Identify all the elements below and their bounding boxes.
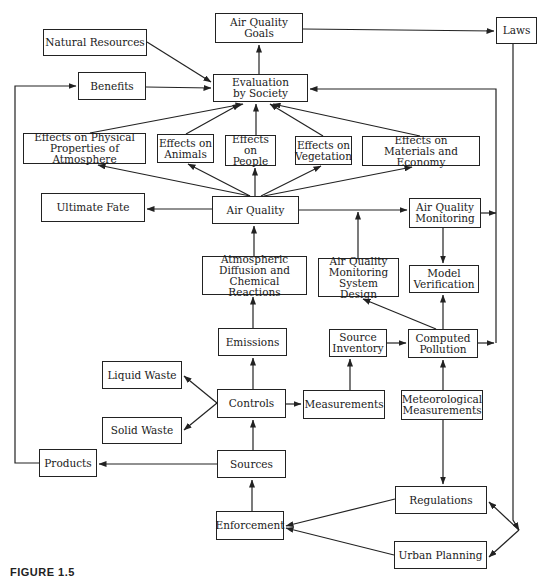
figure-caption: FIGURE 1.5 — [10, 566, 75, 578]
node-effects-people: Effects on People — [225, 135, 276, 166]
arrow-controls-to-liquid_waste — [184, 376, 217, 403]
arrow-computed_pollution-to-aq_monitoring_design — [363, 299, 436, 329]
node-solid-waste: Solid Waste — [102, 417, 182, 444]
node-computed-pollution: Computed Pollution — [408, 329, 478, 358]
node-air-quality-monitoring: Air Quality Monitoring — [409, 198, 481, 228]
node-meteorological-measurements: Meteorological Measurements — [401, 390, 483, 420]
air-quality-flow-diagram: Air Quality Goals Laws Natural Resources… — [0, 0, 539, 578]
node-regulations: Regulations — [395, 486, 487, 514]
arrow-regulations-to-enforcement — [286, 499, 395, 526]
arrow-air_quality-to-effects_physical — [98, 165, 250, 196]
node-measurements: Measurements — [303, 390, 385, 419]
node-ultimate-fate: Ultimate Fate — [41, 193, 145, 222]
node-effects-vegetation: Effects on Vegetation — [295, 136, 352, 165]
node-laws: Laws — [496, 17, 537, 44]
node-effects-animals: Effects on Animals — [157, 134, 214, 163]
node-benefits: Benefits — [78, 72, 146, 100]
node-source-inventory: Source Inventory — [329, 329, 387, 357]
node-products: Products — [39, 449, 97, 477]
node-atmospheric-diffusion: Atmospheric Diffusion and Chemical React… — [202, 256, 307, 295]
arrow-air_quality_goals-to-laws — [303, 29, 494, 31]
node-air-quality-goals: Air Quality Goals — [215, 13, 303, 43]
arrow-laws-to-urban_planning — [513, 44, 519, 530]
arrow-benefits-to-evaluation_by_society — [146, 87, 211, 88]
arrow-air_quality-to-effects_animals — [188, 164, 250, 196]
node-air-quality: Air Quality — [212, 196, 299, 224]
arrow-laws_branch-to-regulations — [489, 502, 519, 530]
arrow-laws_branch-to-urban_planning — [489, 530, 519, 557]
arrow-air_quality-to-effects_materials — [264, 167, 412, 196]
arrow-effects_animals-to-evaluation_by_society — [186, 104, 240, 134]
node-aq-monitoring-system-design: Air Quality Monitoring System Design — [318, 258, 399, 297]
node-liquid-waste: Liquid Waste — [102, 361, 182, 389]
node-effects-materials: Effects on Materials and Economy — [362, 136, 480, 166]
node-emissions: Emissions — [218, 328, 287, 356]
node-controls: Controls — [217, 389, 286, 418]
arrow-air_quality-to-effects_vegetation — [261, 166, 321, 196]
arrow-effects_materials-to-evaluation_by_society — [273, 104, 420, 136]
node-sources: Sources — [217, 450, 286, 478]
node-enforcement: Enforcement — [216, 511, 284, 540]
node-effects-physical: Effects on Physical Properties of Atmosp… — [23, 133, 146, 164]
arrow-controls-to-solid_waste — [184, 403, 217, 430]
node-evaluation-by-society: Evaluation by Society — [213, 74, 308, 102]
node-natural-resources: Natural Resources — [43, 29, 147, 56]
arrow-natural_resources-to-evaluation_by_society — [147, 42, 211, 82]
arrow-effects_physical-to-evaluation_by_society — [90, 104, 243, 133]
node-model-verification: Model Verification — [409, 265, 479, 293]
arrow-urban_planning-to-enforcement — [286, 528, 394, 555]
node-urban-planning: Urban Planning — [394, 541, 487, 569]
